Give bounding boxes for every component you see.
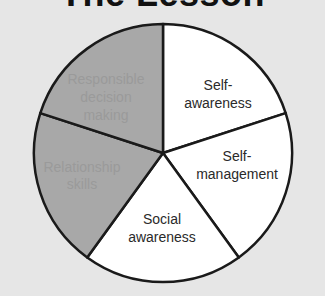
- label-relationship-skills-1: Relationship: [43, 159, 120, 175]
- label-responsible-decision-3: making: [83, 107, 128, 123]
- label-relationship-skills-2: skills: [67, 176, 97, 192]
- label-self-awareness-1: Self-: [204, 77, 233, 93]
- label-self-management-2: management: [196, 166, 278, 182]
- label-social-awareness-2: awareness: [128, 229, 196, 245]
- label-self-management-1: Self-: [223, 148, 252, 164]
- label-responsible-decision-2: decision: [80, 89, 131, 105]
- label-self-awareness-2: awareness: [184, 95, 252, 111]
- label-social-awareness-1: Social: [143, 211, 181, 227]
- pie-chart: Self- awareness Self- management Social …: [0, 0, 325, 296]
- label-responsible-decision-1: Responsible: [67, 71, 144, 87]
